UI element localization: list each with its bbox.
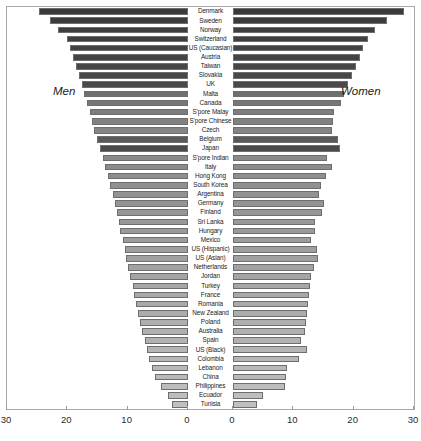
women-bar-cell bbox=[233, 309, 414, 318]
category-label: Sri Lanka bbox=[188, 217, 233, 226]
women-bar bbox=[233, 319, 306, 326]
men-bar bbox=[50, 17, 188, 24]
category-label: Spain bbox=[188, 336, 233, 345]
category-label: Malta bbox=[188, 89, 233, 98]
men-bar-cell bbox=[7, 318, 188, 327]
men-bar-cell bbox=[7, 153, 188, 162]
bar-row: New Zealand bbox=[7, 309, 414, 318]
axis-tick-left-30-0-mark bbox=[6, 406, 7, 410]
category-label: Colombia bbox=[188, 354, 233, 363]
category-label: Austria bbox=[188, 53, 233, 62]
women-bar bbox=[233, 219, 315, 226]
category-label: UK bbox=[188, 80, 233, 89]
category-label: Lebanon bbox=[188, 363, 233, 372]
axis-tick-left-0-3-mark bbox=[187, 406, 188, 410]
men-bar bbox=[113, 191, 188, 198]
category-label: Norway bbox=[188, 25, 233, 34]
men-bar-cell bbox=[7, 80, 188, 89]
bar-row: US (Black) bbox=[7, 345, 414, 354]
men-bar bbox=[140, 319, 188, 326]
men-bar-cell bbox=[7, 98, 188, 107]
bar-row: Jordan bbox=[7, 272, 414, 281]
men-bar-cell bbox=[7, 336, 188, 345]
men-bar bbox=[73, 54, 188, 61]
category-label: Italy bbox=[188, 162, 233, 171]
bar-row: Romania bbox=[7, 300, 414, 309]
men-bar bbox=[147, 346, 188, 353]
bar-row: Italy bbox=[7, 162, 414, 171]
category-label: Slovakia bbox=[188, 71, 233, 80]
axis-tick-left-10-2-mark bbox=[127, 406, 128, 410]
women-bar bbox=[233, 36, 368, 43]
women-bar bbox=[233, 81, 348, 88]
bar-row: France bbox=[7, 290, 414, 299]
men-bar bbox=[119, 219, 188, 226]
women-bar bbox=[233, 173, 326, 180]
bar-row: Australia bbox=[7, 327, 414, 336]
women-bar bbox=[233, 374, 286, 381]
men-bar-cell bbox=[7, 53, 188, 62]
women-bar-cell bbox=[233, 71, 414, 80]
men-bar bbox=[76, 63, 188, 70]
men-bar-cell bbox=[7, 254, 188, 263]
women-bar bbox=[233, 283, 310, 290]
category-label: US (Hispanic) bbox=[188, 245, 233, 254]
women-bar-cell bbox=[233, 135, 414, 144]
men-bar-cell bbox=[7, 236, 188, 245]
category-label: S'pore Indian bbox=[188, 153, 233, 162]
women-bar bbox=[233, 356, 299, 363]
men-bar bbox=[70, 45, 188, 52]
axis-tick-left-0-3: 0 bbox=[184, 414, 189, 425]
women-bar bbox=[233, 127, 332, 134]
category-label: Czech bbox=[188, 126, 233, 135]
men-bar-cell bbox=[7, 199, 188, 208]
men-bar bbox=[138, 310, 188, 317]
bar-row: Switzerland bbox=[7, 34, 414, 43]
women-bar bbox=[233, 72, 352, 79]
men-bar bbox=[130, 273, 188, 280]
category-label: Japan bbox=[188, 144, 233, 153]
women-bar-cell bbox=[233, 108, 414, 117]
category-label: Philippines bbox=[188, 382, 233, 391]
category-label: Hong Kong bbox=[188, 172, 233, 181]
category-label: Turkey bbox=[188, 281, 233, 290]
men-bar bbox=[105, 164, 188, 171]
women-bar bbox=[233, 273, 311, 280]
women-bar bbox=[233, 182, 321, 189]
women-bar bbox=[233, 155, 327, 162]
men-bar bbox=[108, 173, 188, 180]
women-bar bbox=[233, 328, 305, 335]
bar-row: US (Asian) bbox=[7, 254, 414, 263]
women-bar-cell bbox=[233, 199, 414, 208]
men-bar-cell bbox=[7, 135, 188, 144]
bar-row: US (Caucasian) bbox=[7, 44, 414, 53]
women-bar bbox=[233, 109, 334, 116]
men-bar-cell bbox=[7, 172, 188, 181]
women-bar bbox=[233, 191, 319, 198]
men-bar bbox=[149, 356, 188, 363]
men-bar-cell bbox=[7, 290, 188, 299]
women-bar bbox=[233, 228, 315, 235]
women-bar-cell bbox=[233, 144, 414, 153]
men-bar bbox=[136, 301, 188, 308]
bar-row: South Korea bbox=[7, 181, 414, 190]
women-bar-cell bbox=[233, 382, 414, 391]
bar-row: Taiwan bbox=[7, 62, 414, 71]
axis-tick-right-10-1: 10 bbox=[287, 414, 298, 425]
men-bar bbox=[103, 155, 188, 162]
women-bar bbox=[233, 27, 375, 34]
bar-row: Netherlands bbox=[7, 263, 414, 272]
men-bar-cell bbox=[7, 391, 188, 400]
men-bar-cell bbox=[7, 89, 188, 98]
men-bar-cell bbox=[7, 327, 188, 336]
x-axis-labels: 30201000102030 bbox=[0, 412, 421, 438]
women-bar bbox=[233, 100, 341, 107]
men-bar bbox=[87, 100, 188, 107]
women-bar-cell bbox=[233, 263, 414, 272]
men-bar bbox=[117, 209, 188, 216]
women-bar-cell bbox=[233, 345, 414, 354]
men-bar-cell bbox=[7, 217, 188, 226]
women-bar bbox=[233, 17, 387, 24]
men-bar-cell bbox=[7, 108, 188, 117]
men-bar bbox=[67, 36, 188, 43]
